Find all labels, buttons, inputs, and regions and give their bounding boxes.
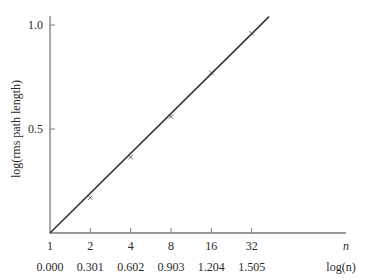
y-axis-title: log(rms path length) [9, 80, 23, 178]
fit-line [50, 17, 269, 233]
fit-line-path [50, 17, 269, 233]
x-tick-label-log: 0.301 [77, 260, 104, 274]
x-tick-label-n: 8 [168, 239, 174, 253]
x-tick-label-log: 0.903 [158, 260, 185, 274]
data-point-x-marker [88, 195, 92, 199]
x-tick-label-n: 1 [47, 239, 53, 253]
y-tick-label: 1.0 [28, 18, 43, 32]
x-tick-label-log: 0.602 [117, 260, 144, 274]
x-tick-label-log: 0.000 [37, 260, 64, 274]
x-tick-label-n: 16 [205, 239, 217, 253]
x-tick-label-n: 2 [87, 239, 93, 253]
axis-ticks [50, 25, 252, 233]
axes [50, 16, 346, 233]
x-tick-label-log: 1.204 [198, 260, 225, 274]
x-axis-title-n: n [343, 239, 349, 253]
data-point-x-marker [169, 114, 173, 118]
data-point-x-marker [128, 155, 132, 159]
x-tick-label-n: 32 [246, 239, 258, 253]
y-tick-label: 0.5 [28, 122, 43, 136]
x-axis-title-log: log(n) [326, 260, 355, 274]
x-tick-label-n: 4 [128, 239, 134, 253]
chart: 10.00020.30140.60280.903161.204321.5050.… [0, 0, 371, 280]
x-tick-label-log: 1.505 [238, 260, 265, 274]
